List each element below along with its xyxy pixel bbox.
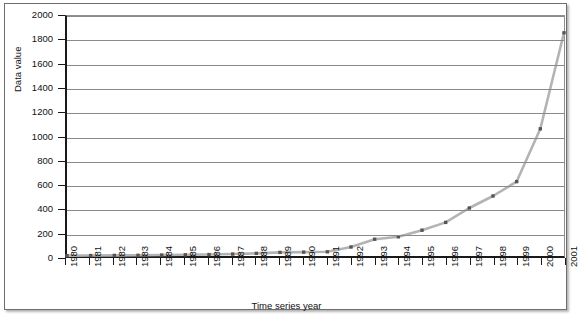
data-point-marker: [420, 229, 423, 232]
data-point-marker: [231, 252, 234, 255]
x-tick-label: 1983: [140, 246, 150, 267]
data-point-marker: [373, 238, 376, 241]
x-tick-label: 1985: [188, 246, 198, 267]
x-tick-label: 1992: [355, 246, 365, 267]
y-tick-mark: [58, 15, 65, 16]
x-tick-mark: [541, 258, 542, 265]
y-tick-mark: [58, 209, 65, 210]
plot-area: [65, 15, 565, 258]
data-point-marker: [515, 180, 518, 183]
x-tick-label: 1982: [117, 246, 127, 267]
x-tick-mark: [375, 258, 376, 265]
gridline-y: [67, 162, 564, 163]
x-tick-label: 1991: [331, 246, 341, 267]
x-tick-mark: [184, 258, 185, 265]
data-point-marker: [326, 250, 329, 253]
x-tick-mark: [160, 258, 161, 265]
x-tick-label: 1980: [69, 246, 79, 267]
y-tick-label: 200: [7, 229, 53, 239]
data-point-marker: [349, 245, 352, 248]
x-tick-mark: [255, 258, 256, 265]
x-tick-mark: [113, 258, 114, 265]
gridline-y: [67, 138, 564, 139]
gridline-y: [67, 89, 564, 90]
x-tick-label: 1986: [212, 246, 222, 267]
x-tick-mark: [89, 258, 90, 265]
x-tick-label: 1989: [283, 246, 293, 267]
x-tick-mark: [232, 258, 233, 265]
series-line-chart: [67, 16, 564, 256]
data-point-marker: [468, 206, 471, 209]
chart-frame: Data value Time series year 020040060080…: [4, 3, 567, 310]
y-tick-label: 600: [7, 180, 53, 190]
x-tick-label: 1990: [307, 246, 317, 267]
x-tick-mark: [303, 258, 304, 265]
y-tick-label: 800: [7, 156, 53, 166]
x-tick-label: 1984: [164, 246, 174, 267]
data-point-marker: [562, 31, 565, 34]
x-tick-label: 2000: [545, 246, 555, 267]
y-tick-label: 400: [7, 204, 53, 214]
y-tick-label: 2000: [7, 10, 53, 20]
x-tick-mark: [422, 258, 423, 265]
y-tick-label: 1400: [7, 83, 53, 93]
x-tick-label: 1988: [259, 246, 269, 267]
x-tick-label: 1995: [426, 246, 436, 267]
y-tick-mark: [58, 234, 65, 235]
gridline-y: [67, 235, 564, 236]
gridline-y: [67, 210, 564, 211]
gridline-y: [67, 16, 564, 17]
data-point-marker: [539, 127, 542, 130]
gridline-y: [67, 40, 564, 41]
y-tick-mark: [58, 88, 65, 89]
data-point-marker: [491, 194, 494, 197]
x-tick-label: 1998: [498, 246, 508, 267]
data-point-marker: [302, 250, 305, 253]
y-tick-mark: [58, 39, 65, 40]
x-tick-label: 1981: [93, 246, 103, 267]
gridline-y: [67, 113, 564, 114]
y-tick-label: 1200: [7, 107, 53, 117]
y-tick-label: 1000: [7, 132, 53, 142]
y-tick-mark: [58, 185, 65, 186]
x-tick-label: 1987: [236, 246, 246, 267]
x-tick-mark: [517, 258, 518, 265]
y-tick-mark: [58, 137, 65, 138]
y-tick-label: 1600: [7, 59, 53, 69]
y-tick-label: 1800: [7, 34, 53, 44]
data-point-marker: [444, 221, 447, 224]
x-tick-mark: [398, 258, 399, 265]
x-tick-mark: [279, 258, 280, 265]
x-tick-label: 2001: [569, 246, 579, 267]
y-tick-label: 0: [7, 253, 53, 263]
series-line: [67, 33, 564, 256]
x-tick-mark: [565, 258, 566, 265]
y-tick-mark: [58, 112, 65, 113]
x-tick-label: 1996: [450, 246, 460, 267]
x-tick-label: 1997: [474, 246, 484, 267]
x-tick-mark: [446, 258, 447, 265]
y-tick-mark: [58, 161, 65, 162]
x-tick-mark: [351, 258, 352, 265]
y-tick-mark: [58, 258, 65, 259]
x-tick-mark: [208, 258, 209, 265]
x-tick-label: 1999: [521, 246, 531, 267]
gridline-y: [67, 65, 564, 66]
gridline-y: [67, 186, 564, 187]
x-tick-mark: [470, 258, 471, 265]
x-tick-label: 1993: [379, 246, 389, 267]
x-tick-mark: [65, 258, 66, 265]
x-tick-mark: [327, 258, 328, 265]
x-tick-label: 1994: [402, 246, 412, 267]
x-tick-mark: [494, 258, 495, 265]
x-tick-mark: [136, 258, 137, 265]
y-tick-mark: [58, 64, 65, 65]
x-axis-title: Time series year: [5, 300, 568, 311]
